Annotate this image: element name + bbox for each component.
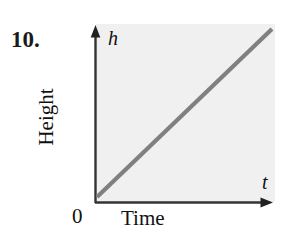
x-axis-arrowhead — [261, 198, 274, 208]
y-axis-title: Height — [36, 62, 57, 172]
y-axis-symbol-label: h — [108, 28, 118, 48]
data-line-height-vs-time — [97, 29, 272, 197]
origin-label: 0 — [72, 206, 83, 227]
y-axis-arrowhead — [91, 25, 101, 38]
x-axis-title: Time — [121, 208, 165, 229]
x-axis-symbol-label: t — [262, 172, 268, 192]
figure-container: 10. h t Height Time 0 — [0, 0, 285, 236]
